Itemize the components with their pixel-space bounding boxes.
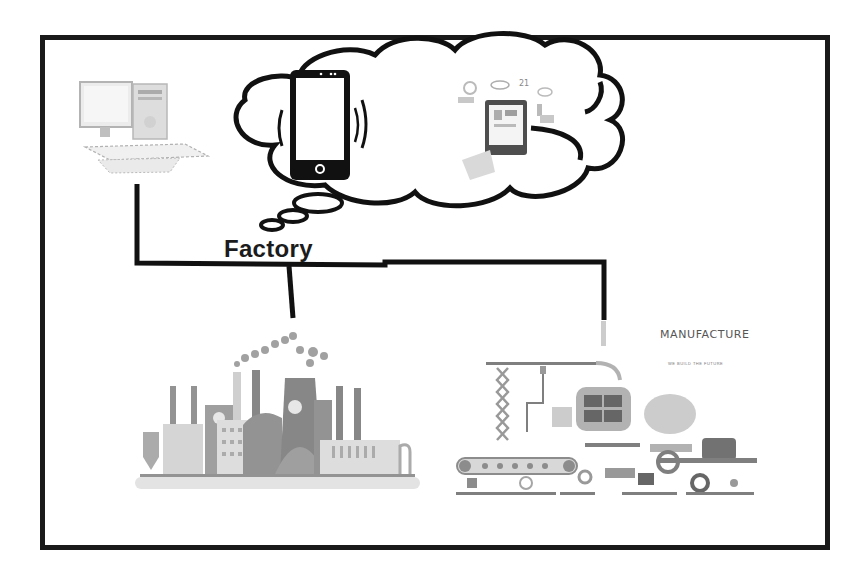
factory-illustration [135,332,420,489]
desktop-computer-icon [80,82,208,173]
diagram-canvas [0,0,868,587]
cloud-annotation-number: 21 [519,79,529,88]
line-to-factory [289,266,293,318]
factory-label: Factory [224,235,313,263]
manufacture-subtitle: WE BUILD THE FUTURE [668,361,723,366]
manufacture-illustration [456,321,757,495]
manufacture-title: MANUFACTURE [660,328,750,341]
thought-bubbles [261,194,342,230]
